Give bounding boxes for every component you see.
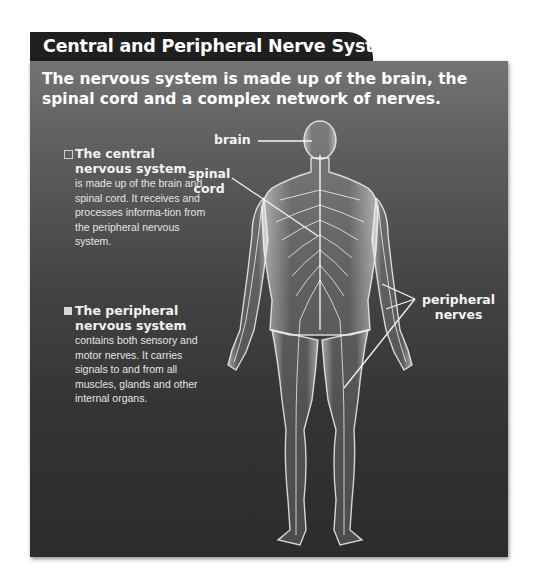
brain-label: brain xyxy=(214,132,251,147)
peripheral-nerves-label-line2: nerves xyxy=(422,307,495,322)
spinal-cord-label-line2: cord xyxy=(188,181,230,196)
head-shape xyxy=(304,121,336,159)
spinal-cord-label: spinal cord xyxy=(188,166,230,196)
peripheral-nerves-label-line1: peripheral xyxy=(422,292,495,307)
peripheral-nerves-label: peripheral nerves xyxy=(422,292,495,322)
spinal-cord-label-line1: spinal xyxy=(188,166,230,181)
human-body-nervous-system-illustration xyxy=(0,0,535,581)
